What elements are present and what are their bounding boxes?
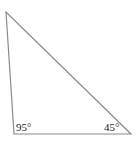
triangle-diagram: 95° 45° (0, 0, 140, 143)
angle-label-bottom-right: 45° (104, 121, 119, 133)
angle-label-bottom-left: 95° (16, 121, 31, 133)
triangle (6, 12, 131, 134)
